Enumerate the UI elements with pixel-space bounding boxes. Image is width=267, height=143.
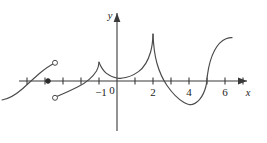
x-axis-label: x (245, 87, 251, 98)
curve-branch-rising (55, 62, 99, 97)
closed-point-marker (46, 79, 51, 84)
y-axis-group (114, 13, 121, 131)
tick-label-4: 4 (186, 86, 192, 98)
open-endpoint-lower-marker (53, 95, 58, 100)
curve-branch-cusp-dip (99, 62, 121, 78)
tick-label-minus1: −1 (95, 86, 107, 98)
tick-label-2: 2 (150, 86, 156, 98)
open-endpoint-upper-marker (53, 60, 58, 65)
curve-branch-asymptote-fall (153, 34, 190, 105)
axis-text-labels: −1 0 2 4 6 x y (95, 10, 251, 98)
x-axis-group (19, 78, 247, 85)
y-axis-arrow-icon (114, 13, 121, 22)
graph-canvas: −1 0 2 4 6 x y (0, 0, 267, 143)
tick-label-origin: 0 (109, 84, 115, 96)
graph-figure: −1 0 2 4 6 x y (0, 0, 267, 143)
y-axis-label: y (107, 10, 113, 21)
tick-label-6: 6 (222, 86, 228, 98)
endpoint-markers (46, 60, 58, 100)
curve-branch-plateau (207, 38, 232, 76)
curve-branch-asymptote-rise (121, 34, 153, 78)
curve-branch-valley-rise (190, 76, 207, 105)
